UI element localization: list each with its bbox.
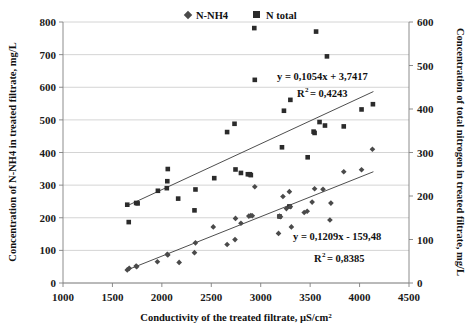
data-point-n-total <box>288 98 293 103</box>
data-point-n-total <box>165 167 170 172</box>
y-right-tick-label: 300 <box>417 147 434 159</box>
data-point-n-total <box>252 26 257 31</box>
y-left-tick-label: 300 <box>40 179 57 191</box>
y-right-tick-label: 400 <box>417 103 434 115</box>
data-point-n-total <box>126 220 131 225</box>
x-tick-label: 4500 <box>398 291 421 303</box>
x-tick-label: 2500 <box>200 291 223 303</box>
annotation-bottom-r2-exponent: 2 <box>322 251 326 259</box>
data-point-n-total <box>232 121 237 126</box>
y-left-tick-label: 400 <box>40 147 57 159</box>
data-point-n-total <box>193 187 198 192</box>
annotation-top-equation: y = 0,1054x + 3,7417 <box>277 71 368 82</box>
y-right-tick-label: 200 <box>417 190 434 202</box>
data-point-n-total <box>165 186 170 191</box>
data-point-n-total <box>125 202 130 207</box>
x-tick-label: 1000 <box>52 291 75 303</box>
data-point-n-total <box>225 130 230 135</box>
annotation-top-r2-exponent: 2 <box>305 86 309 94</box>
data-point-n-total <box>239 171 244 176</box>
y-left-axis-tick-labels: 0100200300400500600700800 <box>40 16 57 289</box>
data-point-n-total <box>249 173 254 178</box>
x-tick-label: 4000 <box>349 291 372 303</box>
legend-label-n-nh4: N-NH4 <box>196 10 229 21</box>
data-point-n-total <box>323 123 328 128</box>
data-point-n-total <box>156 188 161 193</box>
data-point-n-total <box>192 208 197 213</box>
annotation-bottom-r2-base: R <box>314 253 322 264</box>
legend-marker-n-total <box>253 11 260 18</box>
data-point-n-total <box>280 145 285 150</box>
data-point-n-total <box>341 124 346 129</box>
annotation-bottom-equation: y = 0,1209x - 159,48 <box>293 231 381 242</box>
y-left-tick-label: 500 <box>40 114 57 126</box>
x-tick-label: 2000 <box>151 291 174 303</box>
data-point-n-total <box>312 131 317 136</box>
annotation-bottom-r2-value: = 0,8385 <box>327 253 364 264</box>
y-right-tick-label: 600 <box>417 16 434 28</box>
y-left-tick-label: 800 <box>40 16 57 28</box>
data-point-n-total <box>371 102 376 107</box>
chart-background <box>0 0 471 332</box>
y-right-axis-title: Concentration of total nitrogen in treat… <box>455 28 466 276</box>
y-right-tick-label: 100 <box>417 234 434 246</box>
data-point-n-total <box>165 179 170 184</box>
data-point-n-total <box>317 120 322 125</box>
data-point-n-total <box>305 155 310 160</box>
scatter-chart: 10001500200025003000350040004500 0100200… <box>0 0 471 332</box>
y-left-tick-label: 600 <box>40 81 57 93</box>
y-right-tick-label: 0 <box>417 277 423 289</box>
x-axis-title-superscript: 2 <box>328 312 332 320</box>
data-point-n-total <box>359 107 364 112</box>
legend-label-n-total: N total <box>266 10 297 21</box>
data-point-n-total <box>325 54 330 59</box>
y-left-tick-label: 700 <box>40 49 57 61</box>
x-axis-title-base: Conductivity of the treated filtrate, µS… <box>140 312 328 323</box>
chart-figure: 10001500200025003000350040004500 0100200… <box>0 0 471 332</box>
annotation-top-r2-base: R <box>297 88 305 99</box>
annotation-top-r2-value: = 0,4243 <box>310 88 347 99</box>
data-point-n-total <box>282 108 287 113</box>
data-point-n-total <box>135 201 140 206</box>
y-left-tick-label: 200 <box>40 212 57 224</box>
x-tick-label: 1500 <box>101 291 124 303</box>
x-axis-title: Conductivity of the treated filtrate, µS… <box>140 312 332 323</box>
x-tick-label: 3000 <box>250 291 273 303</box>
y-left-axis-title: Concentration of N-NH4 in treated filtra… <box>7 42 18 261</box>
data-point-n-total <box>252 78 257 83</box>
data-point-n-total <box>212 176 217 181</box>
data-point-n-total <box>176 196 181 201</box>
y-left-tick-label: 0 <box>51 277 57 289</box>
y-left-tick-label: 100 <box>40 244 57 256</box>
y-right-tick-label: 500 <box>417 60 434 72</box>
x-tick-label: 3500 <box>299 291 322 303</box>
data-point-n-total <box>314 29 319 34</box>
data-point-n-total <box>233 167 238 172</box>
